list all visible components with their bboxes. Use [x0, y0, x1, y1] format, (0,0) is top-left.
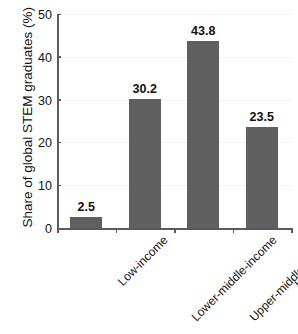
y-axis-tick-label: 40: [38, 51, 52, 65]
bar: [246, 127, 278, 228]
y-axis-tick-label: 30: [38, 94, 52, 108]
bar-chart-figure: Share of global STEM graduates (%) 01020…: [0, 0, 298, 334]
x-axis-tick-mark: [116, 228, 118, 233]
y-axis-tick-mark: [57, 14, 61, 16]
y-axis-tick: 50: [38, 5, 57, 23]
x-axis-category-label: Low-income: [115, 233, 171, 289]
y-axis-tick-mark: [57, 142, 61, 144]
bar: [129, 99, 161, 228]
y-axis-title: Share of global STEM graduates (%): [20, 8, 35, 228]
y-axis-tick: 30: [38, 91, 57, 109]
gridline: [57, 14, 291, 15]
x-axis-tick-mark: [233, 228, 235, 233]
y-axis-tick-label: 10: [38, 179, 52, 193]
bar-value-label: 23.5: [250, 110, 274, 124]
bar: [70, 217, 102, 228]
bar-value-label: 30.2: [133, 82, 157, 96]
y-axis-tick-mark: [57, 185, 61, 187]
bar: [187, 41, 219, 228]
y-axis-tick: 20: [38, 133, 57, 151]
gridline: [57, 57, 291, 58]
x-axis-tick-mark: [291, 228, 293, 233]
y-axis-tick-label: 20: [38, 136, 52, 150]
y-axis-tick: 40: [38, 48, 57, 66]
y-axis-tick-label: 50: [38, 8, 52, 22]
bar-value-label: 2.5: [78, 200, 95, 214]
y-axis-tick-mark: [57, 99, 61, 101]
y-axis-tick-label: 0: [45, 222, 52, 236]
cropped-title-fragment: [60, 0, 180, 1]
plot-area: 010203040502.530.243.823.5: [57, 14, 291, 228]
y-axis-tick-mark: [57, 56, 61, 58]
bar-value-label: 43.8: [191, 24, 215, 38]
gridline: [57, 100, 291, 101]
x-axis-tick-mark: [174, 228, 176, 233]
x-axis-tick-mark: [57, 228, 59, 233]
y-axis-tick: 0: [45, 219, 57, 237]
y-axis-tick: 10: [38, 176, 57, 194]
